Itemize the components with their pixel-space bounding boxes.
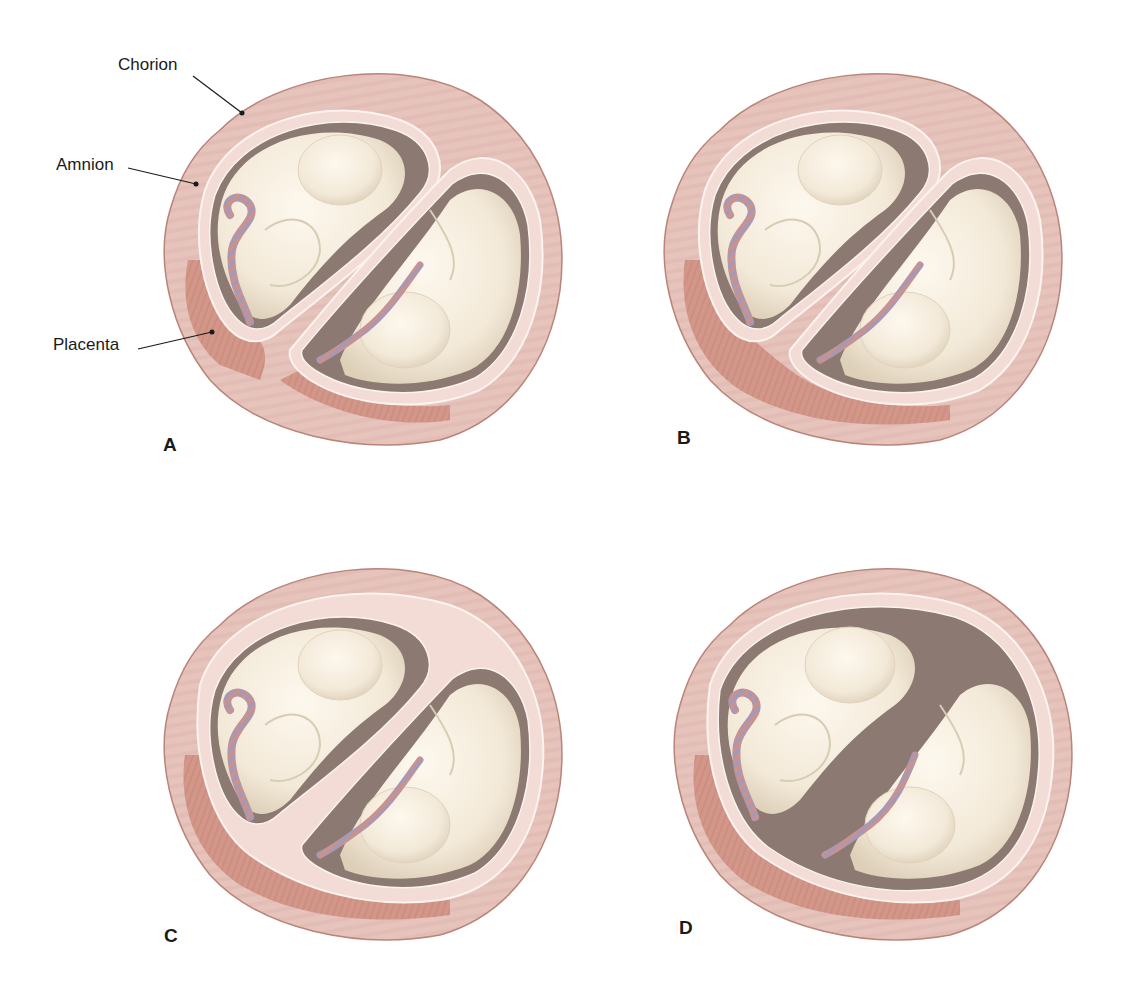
panel-letter-a: A [163, 434, 177, 456]
panel-c [150, 555, 570, 945]
callout-chorion: Chorion [118, 55, 178, 75]
fetus-1-head [798, 135, 882, 205]
callout-placenta: Placenta [53, 335, 119, 355]
twin-illustration-fused-placenta [650, 60, 1070, 450]
panel-d [660, 555, 1080, 945]
fetus-2-head [860, 292, 950, 368]
twin-illustration-monochorionic-monoamniotic [660, 555, 1080, 945]
panel-b [650, 60, 1070, 450]
fetus-2-head [865, 787, 955, 863]
fetus-2-head [360, 787, 450, 863]
panel-letter-c: C [164, 925, 178, 947]
fetus-1-head [298, 135, 382, 205]
fetus-1-head [298, 630, 382, 700]
fetus-1-head [805, 627, 895, 703]
panel-a [150, 60, 570, 450]
panel-letter-d: D [679, 917, 693, 939]
callout-amnion: Amnion [56, 155, 114, 175]
fetus-2-head [360, 292, 450, 368]
twin-illustration-monochorionic-diamniotic [150, 555, 570, 945]
twin-illustration-separate-placentas [150, 60, 570, 450]
panel-letter-b: B [677, 427, 691, 449]
